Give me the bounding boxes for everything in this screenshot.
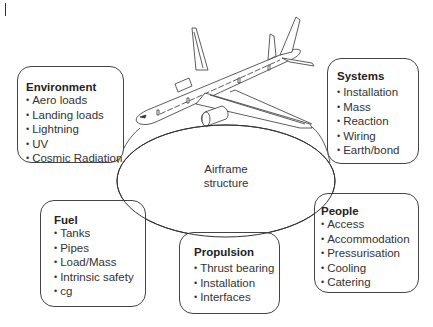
list-item: UV — [26, 138, 123, 153]
airplane-icon — [136, 17, 314, 128]
list-item: Tanks — [54, 227, 145, 242]
airframe-structure-label: Airframe structure — [176, 162, 276, 190]
list-item: Reaction — [337, 115, 418, 130]
list-item: Cosmic Radiation — [26, 152, 123, 167]
propulsion-list: Thrust bearing Installation Interfaces — [194, 262, 279, 306]
people-title: People — [321, 204, 418, 218]
list-item: Load/Mass — [54, 256, 145, 271]
list-item: Installation — [194, 277, 279, 292]
list-item: Mass — [337, 101, 418, 116]
fuel-box: Fuel Tanks Pipes Load/Mass Intrinsic saf… — [40, 200, 146, 307]
propulsion-title: Propulsion — [194, 245, 279, 259]
systems-title: Systems — [337, 69, 418, 83]
systems-list: Installation Mass Reaction Wiring Earth/… — [337, 86, 418, 159]
list-item: Pressurisation — [321, 247, 418, 262]
fuel-list: Tanks Pipes Load/Mass Intrinsic safety c… — [54, 227, 145, 300]
list-item: Accommodation — [321, 233, 418, 248]
list-item: Wiring — [337, 130, 418, 145]
systems-box: Systems Installation Mass Reaction Wirin… — [327, 58, 419, 164]
environment-title: Environment — [26, 80, 123, 94]
list-item: Cooling — [321, 262, 418, 277]
list-item: Installation — [337, 86, 418, 101]
list-item: Earth/bond — [337, 144, 418, 159]
list-item: cg — [54, 285, 145, 300]
list-item: Pipes — [54, 242, 145, 257]
environment-list: Aero loads Landing loads Lightning UV Co… — [26, 94, 123, 167]
list-item: Thrust bearing — [194, 262, 279, 277]
list-item: Access — [321, 218, 418, 233]
list-item: Landing loads — [26, 109, 123, 124]
environment-box: Environment Aero loads Landing loads Lig… — [17, 66, 124, 163]
center-label-line1: Airframe — [176, 162, 276, 176]
people-list: Access Accommodation Pressurisation Cool… — [321, 218, 418, 291]
list-item: Intrinsic safety — [54, 271, 145, 286]
center-label-line2: structure — [176, 176, 276, 190]
list-item: Lightning — [26, 123, 123, 138]
fuel-title: Fuel — [54, 213, 145, 227]
list-item: Interfaces — [194, 291, 279, 306]
people-box: People Access Accommodation Pressurisati… — [314, 193, 419, 293]
list-item: Catering — [321, 276, 418, 291]
list-item: Aero loads — [26, 94, 123, 109]
propulsion-box: Propulsion Thrust bearing Installation I… — [179, 232, 280, 314]
